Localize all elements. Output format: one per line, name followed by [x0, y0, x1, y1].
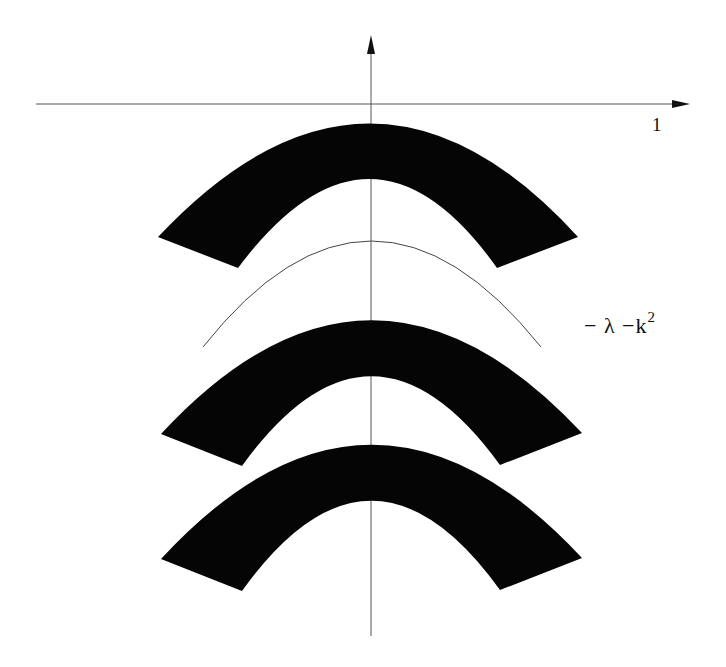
curve-label-lambda: λ: [604, 313, 616, 338]
upper-band: [158, 124, 578, 269]
curve-label-minus: −: [584, 313, 597, 338]
horizontal-axis-arrow-icon: [672, 100, 690, 108]
horizontal-axis-tick-label: 1: [652, 114, 662, 136]
vertical-axis-arrow-icon: [367, 35, 375, 54]
curve-label: − λ −k2: [584, 312, 656, 339]
curve-label-exponent: 2: [648, 309, 657, 325]
curve-label-k: −k: [622, 313, 647, 338]
